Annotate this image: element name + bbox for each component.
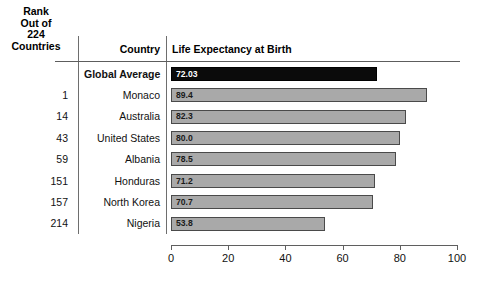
row-country-label: Monaco <box>84 85 160 106</box>
x-axis-tick-label: 60 <box>336 252 348 265</box>
bar-value-label: 78.5 <box>176 153 193 165</box>
x-axis-tick <box>285 245 286 250</box>
row-rank: 1 <box>0 85 68 106</box>
table-row: 1Monaco89.4 <box>0 85 486 106</box>
x-axis-tick-label: 80 <box>394 252 406 265</box>
row-country-label: Honduras <box>84 171 160 192</box>
table-row: 214Nigeria53.8 <box>0 213 486 234</box>
table-row: Global Average72.03 <box>0 64 486 85</box>
bar <box>171 110 406 124</box>
bar-value-label: 70.7 <box>176 196 193 208</box>
bar-value-label: 89.4 <box>176 89 193 101</box>
country-column-header: Country <box>84 44 160 56</box>
bar <box>171 152 396 166</box>
row-country-label: North Korea <box>84 192 160 213</box>
row-country-label: Albania <box>84 149 160 170</box>
x-axis-tick-label: 0 <box>168 252 174 265</box>
rank-column-header: Rank Out of 224 Countries <box>0 6 72 52</box>
row-rank: 59 <box>0 149 68 170</box>
row-bar-area: 70.7 <box>171 192 457 213</box>
x-axis-tick <box>171 245 172 250</box>
metric-column-header: Life Expectancy at Birth <box>172 44 452 56</box>
bar-value-label: 72.03 <box>176 68 198 80</box>
row-rank: 14 <box>0 106 68 127</box>
table-row: 151Honduras71.2 <box>0 171 486 192</box>
row-country-label: United States <box>84 128 160 149</box>
bar <box>171 67 377 81</box>
table-row: 157North Korea70.7 <box>0 192 486 213</box>
row-country-label: Australia <box>84 106 160 127</box>
bar <box>171 195 373 209</box>
bar <box>171 131 400 145</box>
row-country-label: Global Average <box>84 64 160 85</box>
x-axis-tick-label: 40 <box>279 252 291 265</box>
row-bar-area: 80.0 <box>171 128 457 149</box>
table-row: 59Albania78.5 <box>0 149 486 170</box>
bar <box>171 217 325 231</box>
x-axis-tick <box>457 245 458 250</box>
x-axis-tick <box>400 245 401 250</box>
row-country-label: Nigeria <box>84 213 160 234</box>
bar <box>171 174 375 188</box>
rank-header-line-1: Rank <box>0 6 72 18</box>
table-row: 43United States80.0 <box>0 128 486 149</box>
bar-value-label: 53.8 <box>176 217 193 229</box>
x-axis-tick-label: 100 <box>448 252 466 265</box>
row-rank: 43 <box>0 128 68 149</box>
life-expectancy-chart: Rank Out of 224 Countries Country Life E… <box>0 0 486 284</box>
row-rank: 157 <box>0 192 68 213</box>
row-bar-area: 71.2 <box>171 171 457 192</box>
row-bar-area: 53.8 <box>171 213 457 234</box>
bar-value-label: 82.3 <box>176 110 193 122</box>
row-bar-area: 78.5 <box>171 149 457 170</box>
row-bar-area: 72.03 <box>171 64 457 85</box>
row-rank: 151 <box>0 171 68 192</box>
header-rule <box>55 61 460 62</box>
row-bar-area: 82.3 <box>171 106 457 127</box>
row-rank: 214 <box>0 213 68 234</box>
x-axis-line <box>171 245 457 246</box>
x-axis-tick <box>343 245 344 250</box>
bar-value-label: 71.2 <box>176 175 193 187</box>
table-row: 14Australia82.3 <box>0 106 486 127</box>
bar <box>171 88 427 102</box>
x-axis-tick <box>228 245 229 250</box>
bar-value-label: 80.0 <box>176 132 193 144</box>
row-bar-area: 89.4 <box>171 85 457 106</box>
rank-header-line-4: Countries <box>0 41 72 53</box>
x-axis-tick-label: 20 <box>222 252 234 265</box>
